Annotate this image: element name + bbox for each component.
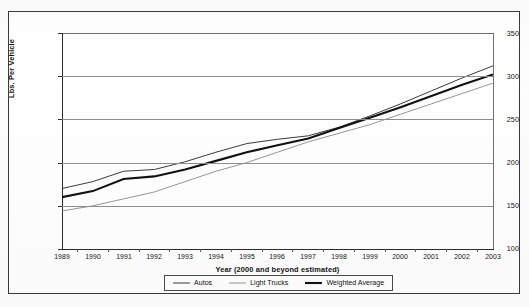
x-tick-mark-2: [139, 249, 140, 252]
y-axis-title: Lbs. Per Vehicle: [7, 39, 16, 98]
legend-item-light-trucks[interactable]: Light Trucks: [229, 279, 288, 287]
legend-label-weighted-average: Weighted Average: [326, 279, 384, 287]
plot-right-border: [493, 33, 494, 250]
x-tick-label-1992: 1992: [137, 253, 171, 260]
gridline-200: [62, 163, 493, 164]
legend-swatch-light-trucks-icon: [229, 281, 246, 285]
plot-area: [62, 33, 493, 249]
x-tick-label-1990: 1990: [76, 253, 110, 260]
x-tick-mark-0: [77, 249, 78, 252]
x-tick-label-1997: 1997: [291, 253, 325, 260]
y-tick-label-250: 250: [491, 116, 519, 123]
legend-swatch-autos-icon: [173, 281, 190, 285]
legend-label-light-trucks: Light Trucks: [250, 279, 288, 287]
y-tick-label-200: 200: [491, 159, 519, 166]
y-tick-label-100: 100: [491, 245, 519, 252]
x-tick-label-1995: 1995: [230, 253, 264, 260]
x-tick-mark-12: [446, 249, 447, 252]
x-tick-mark-3: [169, 249, 170, 252]
figure-container: Lbs. Per Vehicle 350 300 250 200 150 100: [0, 0, 529, 307]
legend-item-autos[interactable]: Autos: [173, 279, 212, 287]
x-axis-title: Year (2000 and beyond estimated): [62, 265, 493, 274]
series-lines: [62, 33, 493, 249]
x-tick-label-1994: 1994: [199, 253, 233, 260]
x-tick-label-2000: 2000: [383, 253, 417, 260]
x-tick-mark-9: [354, 249, 355, 252]
x-tick-label-1999: 1999: [353, 253, 387, 260]
x-axis-line: [62, 249, 494, 250]
x-tick-label-1993: 1993: [168, 253, 202, 260]
chart-legend: Autos Light Trucks Weighted Average: [164, 275, 393, 291]
x-tick-mark-8: [323, 249, 324, 252]
legend-swatch-weighted-average-icon: [305, 281, 322, 285]
gridline-250: [62, 119, 493, 120]
x-tick-mark-1: [108, 249, 109, 252]
legend-label-autos: Autos: [194, 279, 212, 287]
x-tick-mark-6: [262, 249, 263, 252]
x-tick-mark-7: [292, 249, 293, 252]
x-tick-label-1991: 1991: [107, 253, 141, 260]
x-tick-label-1998: 1998: [322, 253, 356, 260]
x-tick-mark-4: [200, 249, 201, 252]
x-tick-label-2002: 2002: [445, 253, 479, 260]
x-tick-label-1996: 1996: [260, 253, 294, 260]
gridline-150: [62, 206, 493, 207]
chart-frame: Lbs. Per Vehicle 350 300 250 200 150 100: [8, 11, 520, 294]
x-tick-mark-5: [231, 249, 232, 252]
x-tick-mark-10: [385, 249, 386, 252]
x-tick-label-1989: 1989: [45, 253, 79, 260]
legend-item-weighted-average[interactable]: Weighted Average: [305, 279, 384, 287]
x-tick-label-2003: 2003: [476, 253, 510, 260]
gridline-300: [62, 76, 493, 77]
x-tick-label-2001: 2001: [414, 253, 448, 260]
y-tick-label-150: 150: [491, 202, 519, 209]
x-tick-mark-11: [415, 249, 416, 252]
y-tick-label-300: 300: [491, 73, 519, 80]
x-tick-mark-13: [477, 249, 478, 252]
y-tick-label-350: 350: [491, 30, 519, 37]
